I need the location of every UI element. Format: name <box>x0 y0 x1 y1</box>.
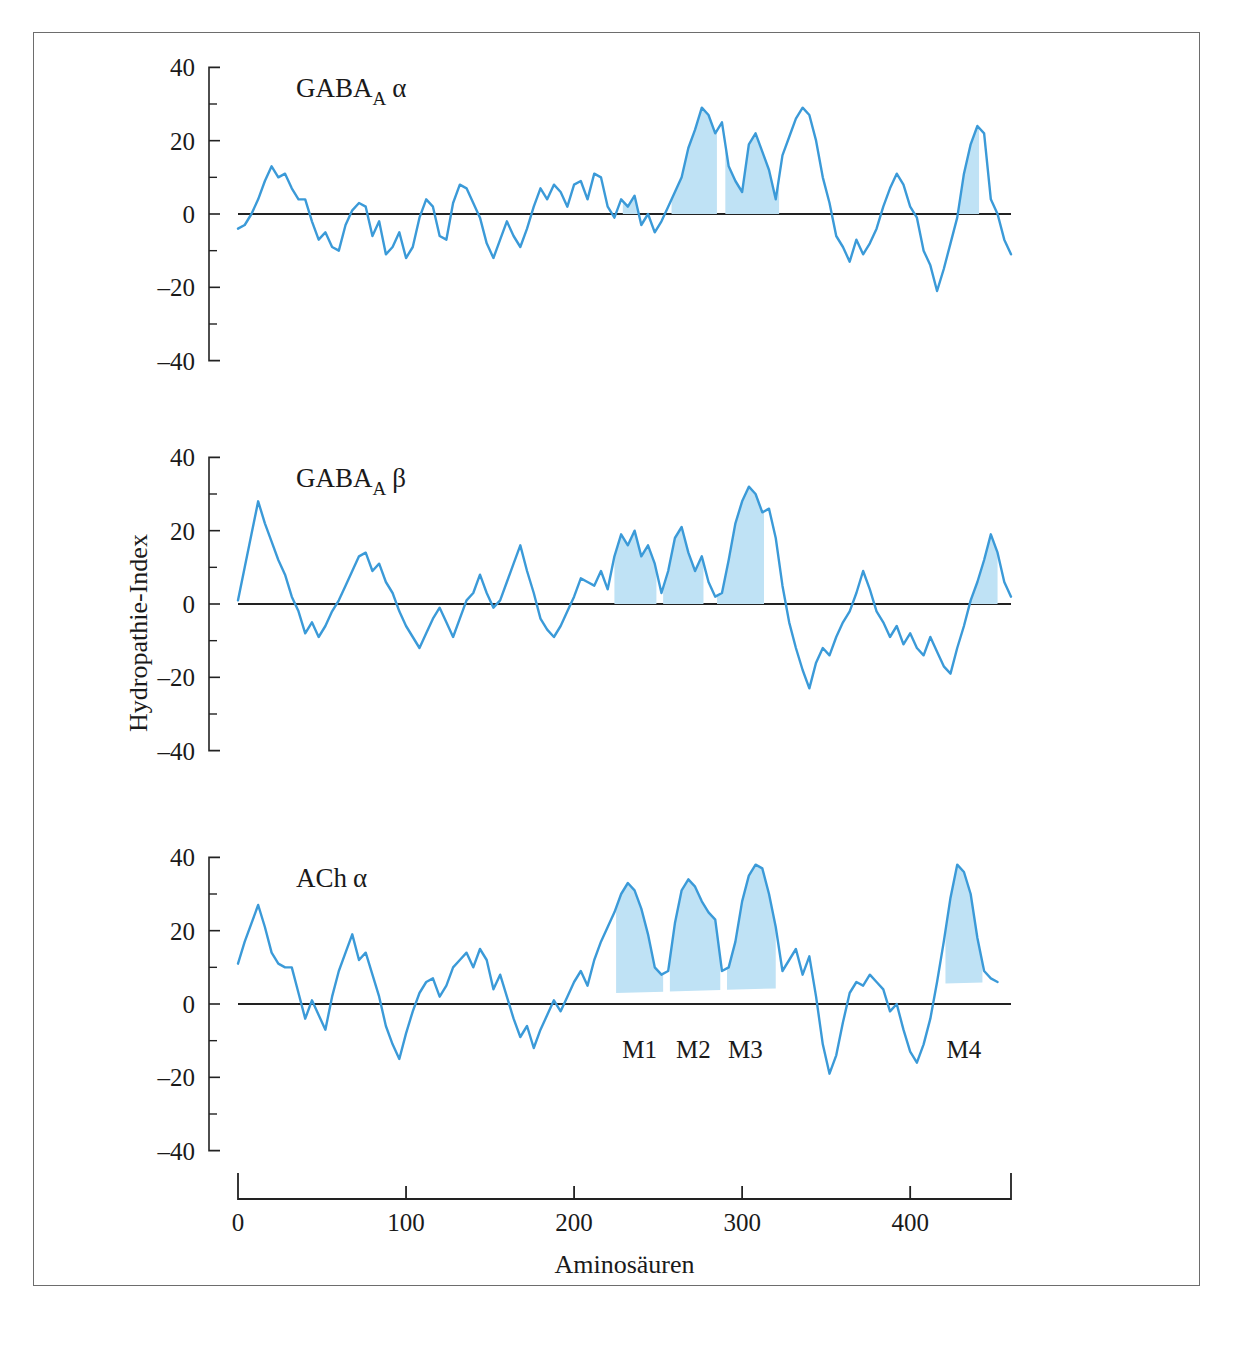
panel-title: GABAAα <box>296 73 406 109</box>
y-tick-label: –20 <box>157 1064 196 1091</box>
y-tick-label: –40 <box>157 1138 196 1165</box>
y-tick-label: –40 <box>157 738 196 765</box>
y-tick-label: 0 <box>183 591 196 618</box>
y-tick-label: 20 <box>170 918 195 945</box>
y-tick-label: 40 <box>170 54 195 81</box>
y-tick-label: 20 <box>170 128 195 155</box>
panel-title: GABAAβ <box>296 463 406 499</box>
panel-2: –40–2002040GABAAβ <box>157 443 1012 765</box>
y-tick-label: 20 <box>170 518 195 545</box>
panel-3: –40–2002040AChαM1M2M3M4 <box>157 843 1012 1165</box>
segment-label-M1: M1 <box>622 1036 657 1063</box>
hydrophobic-segment-M1 <box>238 865 998 1074</box>
x-axis-bracket <box>238 1173 1011 1199</box>
y-tick-label: 40 <box>170 444 195 471</box>
x-tick-label: 300 <box>723 1209 761 1236</box>
y-tick-label: 0 <box>183 991 196 1018</box>
hydrophobic-segment-M1 <box>238 108 1011 291</box>
hydropathy-curve <box>238 108 1011 291</box>
segment-label-M2: M2 <box>676 1036 711 1063</box>
x-tick-label: 0 <box>232 1209 245 1236</box>
y-tick-label: 0 <box>183 201 196 228</box>
hydropathy-plot-svg: –40–2002040GABAAα–40–2002040GABAAβ–40–20… <box>34 33 1201 1287</box>
panel-1: –40–2002040GABAAα <box>157 53 1012 375</box>
x-axis: 0100200300400Aminosäuren <box>232 1173 1011 1279</box>
y-tick-label: –20 <box>157 664 196 691</box>
hydrophobic-segment-M1 <box>238 487 1011 689</box>
hydrophobic-segment-M4 <box>238 108 1011 291</box>
x-axis-title: Aminosäuren <box>554 1250 694 1279</box>
y-tick-label: –40 <box>157 348 196 375</box>
y-tick-label: 40 <box>170 844 195 871</box>
x-tick-label: 200 <box>555 1209 593 1236</box>
x-tick-label: 100 <box>387 1209 425 1236</box>
hydrophobic-segment-M3 <box>238 108 1011 291</box>
segment-label-M4: M4 <box>947 1036 982 1063</box>
x-tick-label: 400 <box>891 1209 929 1236</box>
figure-caption <box>34 1320 1214 1342</box>
segment-label-M3: M3 <box>728 1036 763 1063</box>
y-axis-title: Hydropathie-Index <box>124 534 153 732</box>
panel-title: AChα <box>296 863 367 893</box>
y-tick-label: –20 <box>157 274 196 301</box>
hydrophobic-segment-M2 <box>238 108 1011 291</box>
figure-frame: –40–2002040GABAAα–40–2002040GABAAβ–40–20… <box>33 32 1200 1286</box>
